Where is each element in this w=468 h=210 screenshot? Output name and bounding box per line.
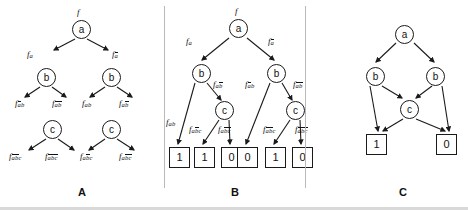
figure-root: f a fa fa b b fab fab fab fab c c fabc f… (0, 0, 468, 210)
panel-a-label-fa: fa (27, 50, 33, 60)
panel-b-edge-label-fabbar: fab (213, 80, 223, 90)
panel-b: f a fa fa b b fab fab fab fab c c fabc f… (165, 0, 305, 210)
panel-b-leaf-5: 1 (265, 147, 286, 168)
panel-b-leaf-4: 0 (237, 147, 258, 168)
panel-a-label-fabbarc-1: fabc (9, 152, 22, 162)
panel-c-caption: C (399, 186, 407, 198)
panel-a-caption: A (78, 186, 86, 198)
panel-c-leaf-0: 0 (436, 134, 457, 155)
panel-a-label-fabarbar: fab (52, 99, 62, 109)
panel-b-edge-label-fabarbar: fab (293, 80, 303, 90)
panel-a-label-fabcbar-1: fabc (45, 152, 58, 162)
panel-b-edge-label-fab: fab (166, 118, 176, 128)
panel-b-node-b-right: b (267, 64, 286, 83)
panel-b-node-a: a (229, 19, 248, 38)
panel-b-edge-label-fabbarc: fabc (189, 125, 202, 135)
panel-a-label-fabar: fa (112, 50, 118, 60)
panel-c-node-b-left: b (366, 67, 385, 86)
panel-a-label-fabbarc-2: fabc (80, 152, 93, 162)
panel-a-node-a: a (72, 20, 91, 39)
panel-a-node-b-right: b (102, 68, 121, 87)
panel-a-node-c-left: c (43, 120, 62, 139)
panel-b-leaf-2: 1 (194, 147, 215, 168)
panel-a: f a fa fa b b fab fab fab fab c c fabc f… (0, 0, 165, 210)
panel-a-node-b-left: b (37, 68, 56, 87)
panel-b-edge-label-fa: fa (186, 37, 192, 47)
panel-a-root-function-label: f (77, 8, 80, 17)
panel-a-label-fabbar: fab (119, 99, 129, 109)
panel-b-edge-label-fabarb: fab (245, 80, 255, 90)
panel-b-edge-label-fabbarcbar: fabc (218, 125, 231, 135)
panel-a-label-fab: fab (82, 99, 92, 109)
panel-b-root-function-label: f (235, 7, 238, 16)
panel-c-edges (306, 0, 468, 210)
panel-c: a b b c 1 0 C (306, 0, 468, 210)
panel-c-leaf-1: 1 (366, 134, 387, 155)
panel-c-node-c-shared: c (400, 100, 419, 119)
panel-b-leaf-1: 1 (169, 147, 190, 168)
panel-a-label-fabcbar-2: fabc (119, 152, 132, 162)
panel-b-node-c-left: c (215, 101, 234, 120)
panel-b-node-c-right: c (286, 101, 305, 120)
panel-a-label-fabarb: fab (15, 99, 25, 109)
panel-c-node-b-right: b (426, 67, 445, 86)
panel-b-edge-label-fabar: fa (268, 37, 274, 47)
panel-b-edge-label-fabarbc: fabc (263, 125, 276, 135)
panel-b-caption: B (231, 186, 239, 198)
panel-a-node-c-right: c (102, 120, 121, 139)
panel-b-node-b-left: b (192, 64, 211, 83)
panel-c-node-a: a (395, 25, 414, 44)
